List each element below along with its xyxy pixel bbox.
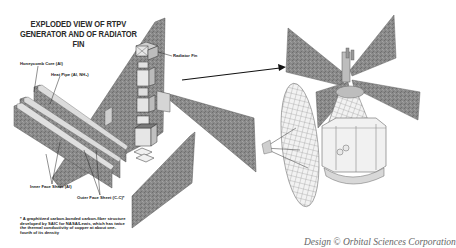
pointer-arrow [182,64,286,80]
spacecraft [262,15,420,209]
footnote: * A graphitized carbon-bonded carbon-fib… [20,217,128,235]
spacecraft-fin-upper-left [286,28,345,86]
label-honeycomb-core: Honeycomb Core (Al) [20,61,63,66]
fin-panel-lower [132,132,195,228]
spacecraft-bus [322,118,386,172]
label-outer-face-sheet: Outer Face Sheet (C-C)* [77,195,124,200]
image-credit: Design © Orbital Sciences Corporation [304,237,456,247]
label-inner-face-sheet: Inner Face Sheet (Al) [30,184,72,189]
spacecraft-fin-upper-right [350,15,396,76]
label-radiator-fin: Radiator Fin [173,53,197,58]
label-heat-pipe: Heat Pipe (Al, NH₃) [51,72,89,77]
diagram-title: EXPLODED VIEW OF RTPV GENERATOR AND OF R… [14,20,143,50]
